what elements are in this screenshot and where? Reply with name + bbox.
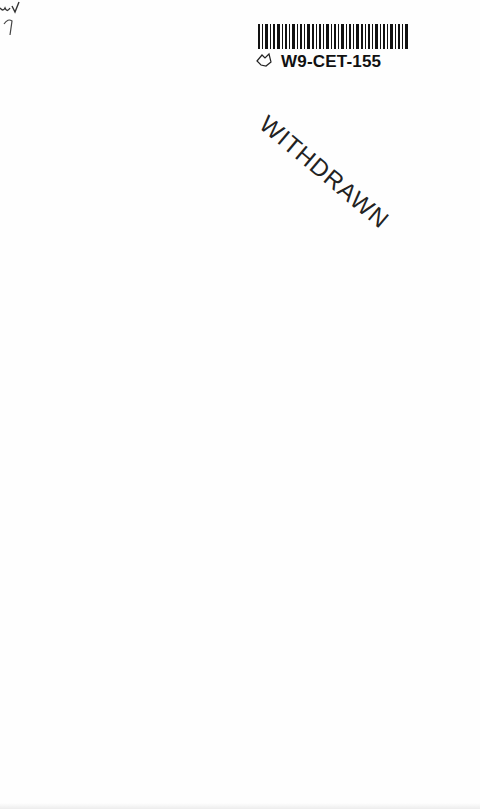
- page-edge: [0, 803, 480, 809]
- barcode-label: W9-CET-155: [255, 22, 445, 82]
- barcode-id: W9-CET-155: [281, 52, 381, 72]
- handwritten-mark: [0, 0, 40, 40]
- leaf-logo-icon: [255, 52, 275, 68]
- withdrawn-stamp: WITHDRAWN: [254, 110, 395, 234]
- barcode-icon: [258, 24, 410, 49]
- page: W9-CET-155 WITHDRAWN: [0, 0, 480, 809]
